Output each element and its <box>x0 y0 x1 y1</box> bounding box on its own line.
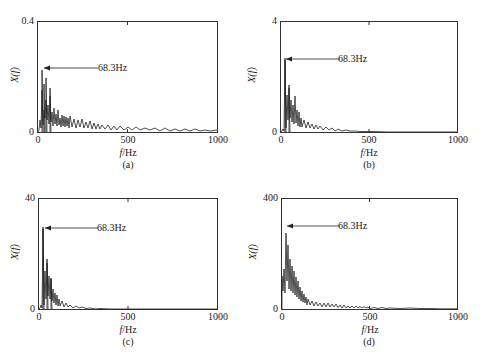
ylabel-b: X(f) <box>247 60 257 90</box>
annotation-label-b: 68.3Hz <box>338 54 367 64</box>
caption-b: (b) <box>354 160 384 170</box>
xtick-500-a: 500 <box>108 135 148 145</box>
xlabel-a: f/Hz <box>108 148 148 158</box>
spectrum-line-b <box>281 60 457 132</box>
annotation-label-d: 68.3Hz <box>338 221 367 231</box>
xtick-500-d: 500 <box>350 312 390 322</box>
xtick-0-d: 0 <box>262 312 302 322</box>
annotation-label-c: 68.3Hz <box>97 223 126 233</box>
xlabel-unit-a: /Hz <box>122 147 136 158</box>
spectrum-line-d <box>282 233 457 309</box>
xtick-500-b: 500 <box>349 135 389 145</box>
ylabel-d: X(f) <box>248 237 258 267</box>
xtick-1000-b: 1000 <box>438 135 478 145</box>
xtick-1000-a: 1000 <box>198 135 238 145</box>
panel-b: 4 0 0 500 1000 X(f) f/Hz (b) 68.3Hz <box>240 0 480 181</box>
xtick-0-a: 0 <box>18 135 58 145</box>
ylabel-c: X(f) <box>10 237 20 267</box>
spectrum-line-c <box>39 229 217 309</box>
ytick-top-d: 400 <box>254 193 278 203</box>
ylabel-a: X(f) <box>10 60 20 90</box>
caption-d: (d) <box>354 337 384 347</box>
xlabel-unit-c: /Hz <box>122 324 136 335</box>
xtick-1000-d: 1000 <box>438 312 478 322</box>
xtick-500-c: 500 <box>108 312 148 322</box>
xlabel-unit-b: /Hz <box>363 147 377 158</box>
panel-c: 40 0 0 500 1000 X(f) f/Hz (c) 68.3Hz <box>0 181 240 362</box>
xlabel-c: f/Hz <box>108 325 148 335</box>
xlabel-b: f/Hz <box>349 148 389 158</box>
ytick-top-b: 4 <box>253 16 277 26</box>
xtick-0-c: 0 <box>19 312 59 322</box>
ytick-top-c: 40 <box>11 193 35 203</box>
panel-a: 0.4 0 0 500 1000 X(f) f/Hz (a) 68.3Hz <box>0 0 240 181</box>
xtick-0-b: 0 <box>261 135 301 145</box>
xtick-1000-c: 1000 <box>198 312 238 322</box>
xlabel-unit-d: /Hz <box>364 324 378 335</box>
caption-a: (a) <box>113 160 143 170</box>
spectrum-line-a <box>38 90 217 132</box>
ytick-top-a: 0.4 <box>10 16 34 26</box>
annotation-label-a: 68.3Hz <box>98 63 127 73</box>
caption-c: (c) <box>113 337 143 347</box>
panel-d: 400 0 0 500 1000 X(f) f/Hz (d) 68.3Hz <box>240 181 480 362</box>
xlabel-d: f/Hz <box>350 325 390 335</box>
